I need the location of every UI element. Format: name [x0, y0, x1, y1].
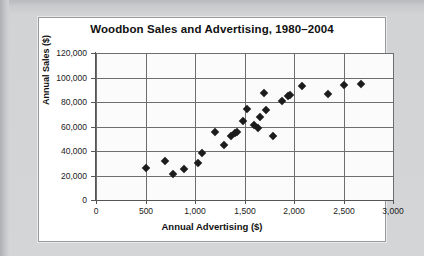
- gridline-vertical: [393, 53, 394, 200]
- x-tick-label: 2,000: [274, 207, 314, 215]
- y-axis-line: [95, 52, 96, 201]
- data-point: [180, 165, 188, 173]
- x-tick-label: 0: [76, 207, 116, 215]
- x-tick: [344, 200, 345, 204]
- data-point: [161, 157, 169, 165]
- data-point: [243, 104, 251, 112]
- x-tick-label: 1,000: [175, 207, 215, 215]
- y-tick: [91, 53, 95, 54]
- x-tick-label: 1,500: [225, 207, 265, 215]
- x-tick-label: 500: [126, 207, 166, 215]
- data-point: [219, 141, 227, 149]
- gridline-vertical: [294, 53, 295, 200]
- y-tick: [91, 78, 95, 79]
- y-tick-label: 80,000: [39, 98, 87, 106]
- gridline-vertical: [195, 53, 196, 200]
- data-point: [198, 149, 206, 157]
- gridline-vertical: [146, 53, 147, 200]
- data-point: [269, 131, 277, 139]
- data-point: [278, 97, 286, 105]
- y-axis-title: Annual Sales ($): [41, 15, 51, 125]
- chart-card: Woodbon Sales and Advertising, 1980–2004…: [38, 17, 386, 242]
- y-tick: [91, 127, 95, 128]
- gridline-vertical: [344, 53, 345, 200]
- y-tick-label: 120,000: [39, 49, 87, 57]
- y-tick: [91, 151, 95, 152]
- y-tick: [91, 200, 95, 201]
- data-point: [260, 89, 268, 97]
- y-tick-label: 60,000: [39, 123, 87, 131]
- gridline-vertical: [96, 53, 97, 200]
- x-tick: [96, 200, 97, 204]
- data-point: [357, 80, 365, 88]
- data-point: [339, 81, 347, 89]
- x-tick: [294, 200, 295, 204]
- y-tick: [91, 176, 95, 177]
- data-point: [262, 106, 270, 114]
- y-tick-label: 20,000: [39, 172, 87, 180]
- x-tick: [245, 200, 246, 204]
- y-tick-label: 40,000: [39, 147, 87, 155]
- x-tick-label: 3,000: [373, 207, 413, 215]
- data-point: [211, 128, 219, 136]
- y-tick-label: 100,000: [39, 74, 87, 82]
- x-tick-label: 2,500: [324, 207, 364, 215]
- data-point: [141, 164, 149, 172]
- y-tick: [91, 102, 95, 103]
- x-tick: [195, 200, 196, 204]
- gridline-vertical: [245, 53, 246, 200]
- chart-title: Woodbon Sales and Advertising, 1980–2004: [39, 23, 385, 35]
- data-point: [256, 113, 264, 121]
- y-tick-label: 0: [39, 196, 87, 204]
- x-tick: [393, 200, 394, 204]
- data-point: [298, 82, 306, 90]
- x-tick: [146, 200, 147, 204]
- data-point: [254, 124, 262, 132]
- data-point: [323, 90, 331, 98]
- plot-area: [96, 53, 393, 200]
- x-axis-title: Annual Advertising ($): [39, 221, 385, 232]
